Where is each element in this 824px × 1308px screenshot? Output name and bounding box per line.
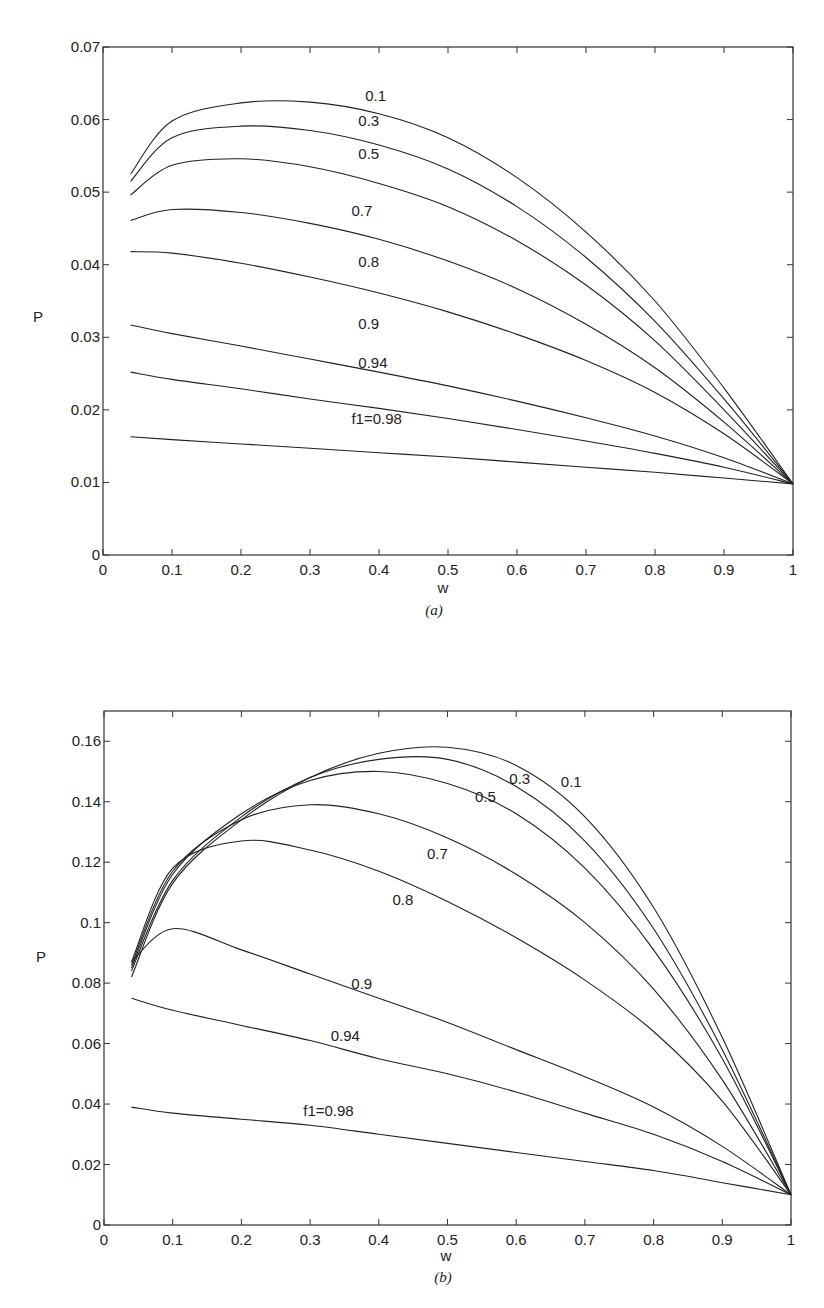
plot-area-a: 00.10.20.30.40.50.60.70.80.91 00.010.020… (71, 38, 797, 578)
curve-label: 0.1 (365, 87, 386, 104)
y-axis-label-b: P (36, 948, 46, 965)
curve-0.7 (131, 209, 793, 484)
x-ticks-a: 00.10.20.30.40.50.60.70.80.91 (99, 47, 797, 578)
y-tick-label: 0.01 (71, 473, 100, 490)
curve-label: 0.9 (351, 975, 372, 992)
plot-area-b: 00.10.20.30.40.50.60.70.80.91 00.020.040… (72, 711, 795, 1248)
curve-label: 0.94 (358, 354, 387, 371)
x-tick-label: 0 (99, 561, 107, 578)
curve-0.7 (131, 805, 791, 1195)
y-tick-label: 0.06 (71, 111, 100, 128)
x-tick-label: 0.2 (231, 1231, 252, 1248)
y-tick-label: 0.04 (72, 1095, 101, 1112)
y-tick-label: 0.08 (72, 974, 101, 991)
y-tick-label: 0.1 (80, 914, 101, 931)
x-tick-label: 0 (100, 1231, 108, 1248)
x-axis-label-b: w (440, 1247, 452, 1264)
y-tick-label: 0.06 (72, 1035, 101, 1052)
curve-0.3 (131, 126, 793, 484)
caption-b: (b) (434, 1269, 452, 1286)
y-tick-label: 0 (93, 1216, 101, 1233)
x-tick-label: 0.9 (714, 561, 735, 578)
x-tick-label: 0.3 (300, 1231, 321, 1248)
curve-0.5 (131, 159, 793, 484)
y-tick-label: 0.02 (71, 401, 100, 418)
x-tick-label: 0.9 (712, 1231, 733, 1248)
curve-label: 0.9 (358, 315, 379, 332)
caption-a: (a) (425, 602, 443, 619)
y-tick-label: 0.07 (71, 38, 100, 55)
curve-label: 0.3 (358, 112, 379, 129)
x-axis-label-a: w (437, 579, 449, 596)
curve-f1=0.98 (131, 437, 793, 484)
x-tick-label: 1 (787, 1231, 795, 1248)
curve-labels-b: 0.10.30.50.70.80.90.94f1=0.98 (303, 770, 581, 1120)
x-tick-label: 0.5 (438, 561, 459, 578)
y-tick-label: 0.12 (72, 853, 101, 870)
curve-label: f1=0.98 (351, 410, 401, 427)
curves-a (131, 101, 793, 484)
curve-0.8 (131, 840, 791, 1194)
x-tick-label: 0.2 (231, 561, 252, 578)
x-tick-label: 0.3 (300, 561, 321, 578)
x-tick-label: 0.6 (506, 1231, 527, 1248)
curve-f1=0.98 (131, 1107, 791, 1195)
x-tick-label: 0.4 (369, 561, 390, 578)
y-tick-label: 0.16 (72, 732, 101, 749)
x-tick-label: 0.6 (507, 561, 528, 578)
curve-label: 0.94 (331, 1027, 360, 1044)
x-ticks-b: 00.10.20.30.40.50.60.70.80.91 (100, 711, 795, 1248)
chart-b: 00.10.20.30.40.50.60.70.80.91 00.020.040… (0, 640, 824, 1308)
curve-0.9 (131, 929, 791, 1195)
x-tick-label: 0.8 (645, 561, 666, 578)
x-tick-label: 1 (789, 561, 797, 578)
x-tick-label: 0.4 (368, 1231, 389, 1248)
y-tick-label: 0.14 (72, 793, 101, 810)
curve-0.1 (131, 101, 793, 484)
curve-label: 0.8 (393, 891, 414, 908)
chart-a: 00.10.20.30.40.50.60.70.80.91 00.010.020… (0, 0, 824, 640)
curve-label: 0.7 (427, 845, 448, 862)
curve-0.5 (131, 771, 791, 1194)
y-tick-label: 0.04 (71, 256, 100, 273)
x-tick-label: 0.1 (162, 1231, 183, 1248)
curve-0.8 (131, 252, 793, 484)
curve-label: f1=0.98 (303, 1102, 353, 1119)
curve-label: 0.1 (561, 773, 582, 790)
curve-label: 0.5 (475, 788, 496, 805)
x-tick-label: 0.5 (437, 1231, 458, 1248)
x-tick-label: 0.8 (643, 1231, 664, 1248)
y-tick-label: 0 (92, 546, 100, 563)
y-tick-label: 0.05 (71, 183, 100, 200)
y-axis-label-a: P (33, 308, 43, 325)
x-tick-label: 0.7 (574, 1231, 595, 1248)
x-tick-label: 0.1 (162, 561, 183, 578)
curve-label: 0.8 (358, 253, 379, 270)
y-tick-label: 0.02 (72, 1156, 101, 1173)
curve-label: 0.7 (351, 202, 372, 219)
curve-label: 0.3 (509, 770, 530, 787)
y-ticks-b: 00.020.040.060.080.10.120.140.16 (72, 732, 791, 1233)
axes-frame-a (103, 47, 793, 555)
curves-b (131, 747, 791, 1195)
y-tick-label: 0.03 (71, 328, 100, 345)
x-tick-label: 0.7 (576, 561, 597, 578)
curve-label: 0.5 (358, 145, 379, 162)
